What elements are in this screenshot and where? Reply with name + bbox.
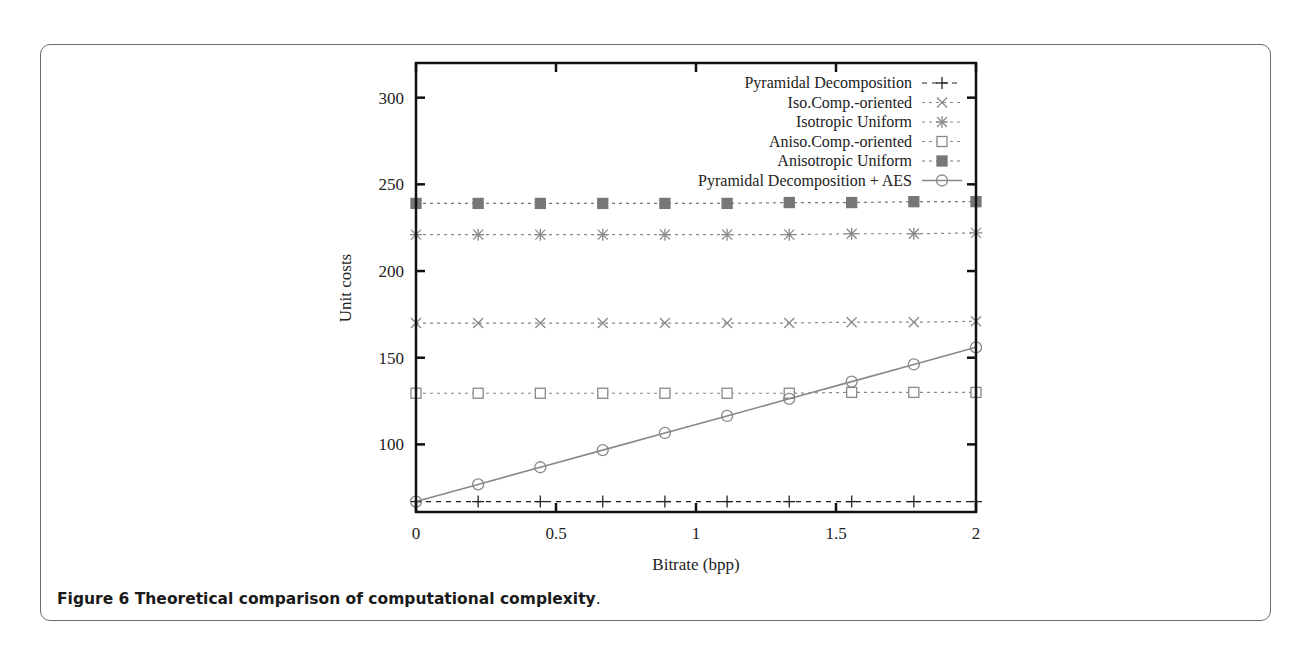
series-iso-comp-oriented (411, 316, 981, 328)
data-point-marker (783, 229, 795, 241)
y-tick-label: 300 (379, 89, 405, 108)
x-tick-label: 2 (972, 524, 981, 543)
legend-marker (937, 156, 947, 166)
series-line (416, 202, 976, 204)
data-point-marker (784, 318, 794, 328)
data-point-marker (909, 387, 919, 397)
caption-title: Figure 6 Theoretical comparison of compu… (57, 590, 596, 608)
data-point-marker (847, 387, 857, 397)
data-point-marker (846, 496, 858, 508)
legend-label: Pyramidal Decomposition + AES (698, 172, 912, 190)
y-axis-label: Unit costs (336, 254, 355, 322)
legend-entry: Pyramidal Decomposition (744, 74, 962, 92)
x-tick-label: 0.5 (545, 524, 566, 543)
data-point-marker (846, 228, 858, 240)
legend-entry: Isotropic Uniform (796, 113, 962, 131)
data-point-marker (909, 197, 919, 207)
data-point-marker (659, 229, 671, 241)
data-point-marker (721, 496, 733, 508)
data-point-marker (847, 317, 857, 327)
data-point-marker (660, 388, 670, 398)
data-point-marker (534, 496, 546, 508)
y-tick-label: 150 (379, 349, 405, 368)
legend-label: Pyramidal Decomposition (744, 74, 912, 92)
legend-entry: Pyramidal Decomposition + AES (698, 172, 962, 190)
data-point-marker (597, 496, 609, 508)
data-point-marker (660, 198, 670, 208)
caption-period: . (596, 590, 601, 608)
legend-marker (936, 77, 948, 89)
y-tick-label: 100 (379, 435, 405, 454)
data-point-marker (534, 229, 546, 241)
legend-marker (936, 116, 948, 128)
data-point-marker (783, 496, 795, 508)
series-anisotropic-uniform (411, 197, 981, 209)
series-pyramidal-decomposition-aes (411, 342, 982, 507)
x-tick-label: 0 (412, 524, 421, 543)
data-point-marker (535, 198, 545, 208)
data-point-marker (722, 198, 732, 208)
series-line (416, 321, 976, 323)
data-point-marker (473, 388, 483, 398)
x-tick-label: 1 (692, 524, 701, 543)
legend-entry: Anisotropic Uniform (777, 152, 962, 170)
series-aniso-comp-oriented (411, 387, 981, 398)
data-point-marker (909, 317, 919, 327)
legend-entry: Aniso.Comp.-oriented (769, 133, 962, 151)
x-tick-label: 1.5 (825, 524, 846, 543)
legend-entry: Iso.Comp.-oriented (788, 94, 962, 112)
series-line (416, 347, 976, 501)
y-tick-label: 250 (379, 175, 405, 194)
data-point-marker (597, 229, 609, 241)
data-point-marker (908, 496, 920, 508)
data-point-marker (473, 198, 483, 208)
data-point-marker (659, 496, 671, 508)
data-point-marker (908, 228, 920, 240)
data-point-marker (472, 496, 484, 508)
plot-area-border (416, 63, 976, 512)
y-tick-label: 200 (379, 262, 405, 281)
legend-marker (937, 137, 947, 147)
x-axis-label: Bitrate (bpp) (652, 555, 739, 574)
legend-label: Isotropic Uniform (796, 113, 913, 131)
legend-label: Anisotropic Uniform (777, 152, 912, 170)
data-point-marker (722, 318, 732, 328)
series-layer (410, 197, 982, 508)
line-chart: 10015020025030000.511.52 Bitrate (bpp) U… (0, 0, 1315, 658)
figure-caption: Figure 6 Theoretical comparison of compu… (57, 590, 601, 608)
series-line (416, 233, 976, 235)
series-line (416, 392, 976, 393)
data-point-marker (598, 388, 608, 398)
legend: Pyramidal DecompositionIso.Comp.-oriente… (698, 74, 962, 190)
legend-label: Aniso.Comp.-oriented (769, 133, 912, 151)
data-point-marker (784, 198, 794, 208)
data-point-marker (535, 388, 545, 398)
data-point-marker (721, 229, 733, 241)
legend-label: Iso.Comp.-oriented (788, 94, 912, 112)
data-point-marker (847, 198, 857, 208)
series-isotropic-uniform (410, 227, 982, 241)
data-point-marker (722, 388, 732, 398)
data-point-marker (598, 198, 608, 208)
data-point-marker (472, 229, 484, 241)
